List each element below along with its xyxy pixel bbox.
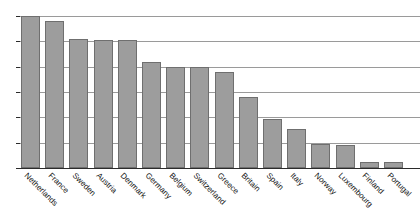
bar-chart: 0123456 NetherlandsFranceSwedenAustriaDe… bbox=[0, 0, 420, 220]
bar bbox=[166, 67, 185, 168]
bar bbox=[45, 21, 64, 168]
bar bbox=[239, 97, 258, 168]
x-axis-label: Sweden bbox=[71, 171, 98, 198]
x-axis-label: Norway bbox=[313, 171, 339, 197]
x-axis-label: Britain bbox=[240, 171, 262, 193]
x-axis-label: Austria bbox=[95, 171, 119, 195]
x-axis-label: Italy bbox=[288, 171, 305, 188]
bar bbox=[311, 144, 330, 168]
bar bbox=[215, 72, 234, 168]
bar bbox=[69, 39, 88, 168]
bar bbox=[142, 62, 161, 168]
bar bbox=[336, 145, 355, 168]
bar bbox=[118, 40, 137, 168]
bar bbox=[287, 129, 306, 168]
x-axis-labels: NetherlandsFranceSwedenAustriaDenmarkGer… bbox=[20, 169, 420, 220]
plot-area: 0123456 bbox=[20, 16, 420, 168]
bar bbox=[263, 119, 282, 168]
cropped-title-strip bbox=[0, 0, 420, 8]
bar bbox=[360, 162, 379, 168]
x-axis-label: Spain bbox=[264, 171, 285, 192]
bar bbox=[384, 162, 403, 168]
bar bbox=[21, 16, 40, 168]
bar-series bbox=[20, 16, 420, 168]
bar bbox=[190, 67, 209, 168]
bar bbox=[94, 40, 113, 168]
x-axis-label: Portugal bbox=[385, 171, 412, 198]
